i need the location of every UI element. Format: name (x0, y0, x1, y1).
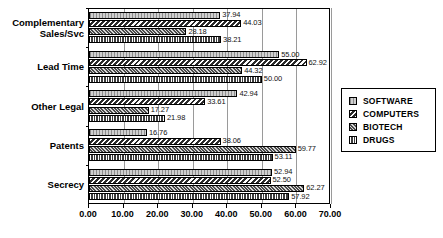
bar-value-label: 44.03 (243, 19, 261, 27)
axis-tick-label: 10.00 (111, 209, 134, 219)
bar-computers (89, 20, 241, 27)
bar-group: 16.7638.0659.7753.11 (89, 129, 330, 161)
value-axis: 0.0010.0020.0030.0040.0050.0060.0070.00 (88, 204, 330, 226)
bar-software (89, 51, 279, 58)
category-label: Lead Time (0, 61, 84, 72)
bar-computers (89, 138, 221, 145)
bar-group: 55.0062.9244.3250.00 (89, 51, 330, 83)
bar-value-label: 28.18 (188, 28, 206, 36)
category-tick (86, 47, 89, 48)
bar-value-label: 42.94 (239, 90, 257, 98)
category-label: Patents (0, 140, 84, 151)
bar-value-label: 50.00 (264, 75, 282, 83)
bar-drugs (89, 193, 289, 200)
axis-tick-label: 60.00 (284, 209, 307, 219)
bar-value-label: 37.94 (222, 11, 240, 19)
category-label: Other Legal (0, 101, 84, 112)
axis-tick (192, 204, 193, 208)
bar-group: 52.9452.5062.2757.92 (89, 169, 330, 201)
category-tick (86, 165, 89, 166)
bar-group: 37.9444.0328.1838.21 (89, 12, 330, 44)
legend-item-drugs[interactable]: DRUGS (349, 133, 430, 146)
bar-computers (89, 98, 205, 105)
bar-computers (89, 59, 307, 66)
bar-biotech (89, 185, 304, 192)
axis-tick (330, 204, 331, 208)
bar-value-label: 55.00 (281, 51, 299, 59)
bar-software (89, 169, 272, 176)
category-label: ComplementarySales/Svc (0, 17, 84, 39)
legend-swatch-icon (349, 123, 357, 131)
bar-value-label: 38.21 (223, 36, 241, 44)
axis-tick (295, 204, 296, 208)
bar-software (89, 12, 220, 19)
plot-area: 37.9444.0328.1838.2155.0062.9244.3250.00… (88, 8, 330, 204)
bar-drugs (89, 115, 165, 122)
category-tick (86, 8, 89, 9)
legend-item-biotech[interactable]: BIOTECH (349, 120, 430, 133)
bar-value-label: 52.50 (273, 176, 291, 184)
legend-item-software[interactable]: SOFTWARE (349, 94, 430, 107)
bar-drugs (89, 154, 273, 161)
axis-tick (261, 204, 262, 208)
bar-value-label: 57.92 (291, 193, 309, 201)
category-tick (86, 126, 89, 127)
axis-tick (157, 204, 158, 208)
axis-tick-label: 0.00 (79, 209, 97, 219)
bar-chart: ComplementarySales/SvcLead TimeOther Leg… (0, 0, 443, 238)
category-label: Secrecy (0, 179, 84, 190)
gridline (331, 8, 332, 204)
bar-value-label: 33.61 (207, 98, 225, 106)
axis-tick (88, 204, 89, 208)
bar-drugs (89, 76, 262, 83)
legend-label: BIOTECH (363, 122, 403, 132)
legend-label: DRUGS (363, 135, 395, 145)
axis-tick-label: 70.00 (319, 209, 342, 219)
legend-swatch-icon (349, 110, 357, 118)
bar-computers (89, 177, 271, 184)
bar-value-label: 38.06 (223, 137, 241, 145)
bar-value-label: 44.32 (244, 67, 262, 75)
category-axis: ComplementarySales/SvcLead TimeOther Leg… (0, 8, 86, 204)
bar-value-label: 59.77 (298, 145, 316, 153)
axis-tick (123, 204, 124, 208)
bar-biotech (89, 146, 296, 153)
bar-value-label: 53.11 (275, 153, 293, 161)
bar-value-label: 21.98 (167, 114, 185, 122)
bar-value-label: 62.92 (309, 59, 327, 67)
bar-drugs (89, 36, 221, 43)
bar-biotech (89, 67, 242, 74)
legend-swatch-icon (349, 136, 357, 144)
bar-software (89, 129, 147, 136)
axis-tick-label: 20.00 (146, 209, 169, 219)
legend-item-computers[interactable]: COMPUTERS (349, 107, 430, 120)
legend-label: SOFTWARE (363, 96, 413, 106)
legend-swatch-icon (349, 97, 357, 105)
category-tick (86, 86, 89, 87)
axis-tick-label: 30.00 (180, 209, 203, 219)
bar-group: 42.9433.6117.2721.98 (89, 90, 330, 122)
axis-tick (226, 204, 227, 208)
legend-label: COMPUTERS (363, 109, 419, 119)
axis-tick-label: 50.00 (250, 209, 273, 219)
bar-biotech (89, 107, 149, 114)
legend: SOFTWARECOMPUTERSBIOTECHDRUGS (341, 88, 436, 152)
bar-biotech (89, 28, 186, 35)
axis-tick-label: 40.00 (215, 209, 238, 219)
bar-value-label: 16.76 (149, 129, 167, 137)
